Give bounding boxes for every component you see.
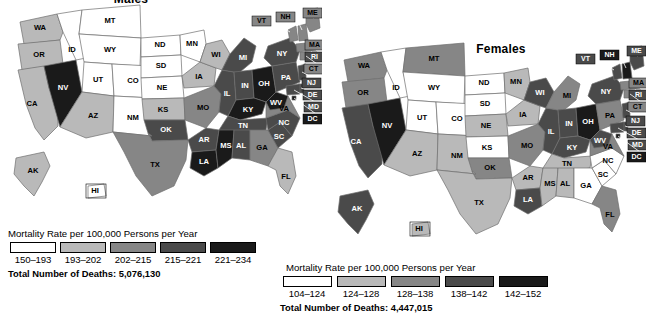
state-label-tn: TN [238, 121, 248, 130]
callout-label-ri: RI [635, 91, 642, 98]
state-label-ny: NY [601, 87, 612, 96]
state-label-ga: GA [256, 143, 268, 152]
legend-bin: 142–152 [496, 276, 550, 299]
state-label-pa: PA [281, 73, 292, 82]
state-label-oh: OH [582, 117, 593, 126]
females-legend-swatches: 104–124124–128128–138138–142142–152 [268, 276, 598, 299]
callout-label-nj: NJ [631, 117, 640, 124]
state-label-ms: MS [220, 141, 231, 150]
state-label-ak: AK [352, 204, 363, 213]
callout-label-vt: VT [581, 55, 591, 62]
state-label-nd: ND [155, 40, 166, 49]
state-label-mt: MT [105, 16, 116, 25]
state-label-id: ID [392, 83, 400, 92]
state-label-ks: KS [158, 105, 169, 114]
state-label-al: AL [236, 141, 246, 150]
state-label-mn: MN [510, 77, 522, 86]
state-label-mo: MO [197, 103, 209, 112]
state-label-la: LA [523, 195, 534, 204]
state-label-sc: SC [598, 170, 609, 179]
state-label-wa: WA [358, 61, 371, 70]
callout-label-me: ME [307, 9, 318, 16]
legend-bin: 128–138 [388, 276, 442, 299]
callout-leader-vt [596, 59, 614, 70]
state-nh [622, 62, 632, 79]
state-vt [612, 64, 622, 80]
state-label-mn: MN [186, 39, 198, 48]
state-label-il: IL [548, 127, 555, 136]
state-label-la: LA [199, 157, 210, 166]
state-label-ga: GA [580, 181, 592, 190]
state-label-ks: KS [482, 143, 493, 152]
state-label-ms: MS [544, 179, 555, 188]
legend-swatch [10, 242, 56, 253]
state-label-wv: WV [594, 136, 607, 145]
state-label-ky: KY [567, 143, 578, 152]
state-label-ar: AR [199, 135, 210, 144]
legend-bin-label: 124–128 [343, 288, 380, 299]
state-label-ak: AK [28, 166, 39, 175]
state-md [286, 84, 300, 95]
legend-swatch [337, 276, 386, 287]
state-label-id: ID [68, 45, 76, 54]
state-label-ok: OK [160, 125, 172, 134]
state-label-mo: MO [521, 141, 533, 150]
state-label-sc: SC [274, 132, 285, 141]
state-label-ne: NE [157, 83, 168, 92]
legend-bin-label: 142–152 [505, 288, 542, 299]
legend-bin: 221–234 [208, 242, 258, 265]
legend-bin: 202–215 [108, 242, 158, 265]
state-label-ia: IA [519, 110, 527, 119]
state-label-co: CO [451, 114, 462, 123]
callout-label-nh: NH [604, 51, 614, 58]
males-legend-swatches: 150–193193–202202–215215–221221–234 [8, 242, 258, 265]
state-label-fl: FL [281, 172, 291, 181]
males-map-panel: Males WAORCANVIDMTWYUTCOAZNMNDSDNEKSOKTX… [0, 0, 322, 224]
females-choropleth-map: WAORCANVIDMTWYUTCOAZNMNDSDNEKSOKTXMNIAMO… [300, 34, 646, 264]
females-legend: Mortality Rate per 100,000 Persons per Y… [268, 262, 598, 313]
state-label-ca: CA [351, 137, 362, 146]
callout-label-vt: VT [257, 17, 267, 24]
callout-label-ct: CT [633, 103, 643, 110]
legend-bin-label: 150–193 [15, 254, 52, 265]
state-label-nc: NC [279, 118, 290, 127]
legend-bin-label: 221–234 [215, 254, 252, 265]
callout-label-ma: MA [633, 79, 644, 86]
state-label-in: IN [565, 119, 573, 128]
callout-leader-vt [272, 21, 290, 32]
state-label-fl: FL [605, 210, 615, 219]
state-label-pa: PA [605, 111, 616, 120]
legend-swatch [391, 276, 440, 287]
males-legend: Mortality Rate per 100,000 Persons per Y… [8, 228, 258, 279]
state-label-tx: TX [474, 198, 484, 207]
legend-bin: 215–221 [158, 242, 208, 265]
legend-swatch [210, 242, 256, 253]
males-choropleth-map: WAORCANVIDMTWYUTCOAZNMNDSDNEKSOKTXMNIAMO… [0, 0, 322, 224]
state-label-co: CO [127, 76, 138, 85]
legend-swatch [499, 276, 548, 287]
legend-bin-label: 215–221 [165, 254, 202, 265]
legend-swatch [60, 242, 106, 253]
state-md [610, 122, 624, 133]
state-label-ny: NY [277, 49, 288, 58]
state-label-wi: WI [211, 50, 220, 59]
state-label-in: IN [241, 81, 249, 90]
callout-label-dc: DC [631, 153, 641, 160]
state-label-al: AL [560, 179, 570, 188]
legend-swatch [283, 276, 332, 287]
state-label-mi: MI [239, 53, 247, 62]
legend-swatch [445, 276, 494, 287]
state-label-hi: HI [91, 186, 99, 195]
state-label-ar: AR [523, 173, 534, 182]
males-legend-title: Mortality Rate per 100,000 Persons per Y… [8, 228, 258, 239]
state-label-wv: WV [270, 98, 283, 107]
state-label-nm: NM [127, 113, 139, 122]
legend-bin: 104–124 [280, 276, 334, 299]
state-label-ne: NE [481, 121, 492, 130]
legend-swatch [160, 242, 206, 253]
callout-label-de: DE [632, 129, 642, 136]
state-label-nv: NV [382, 121, 393, 130]
state-label-wy: WY [104, 45, 116, 54]
state-label-nm: NM [451, 151, 463, 160]
state-label-il: IL [224, 89, 231, 98]
